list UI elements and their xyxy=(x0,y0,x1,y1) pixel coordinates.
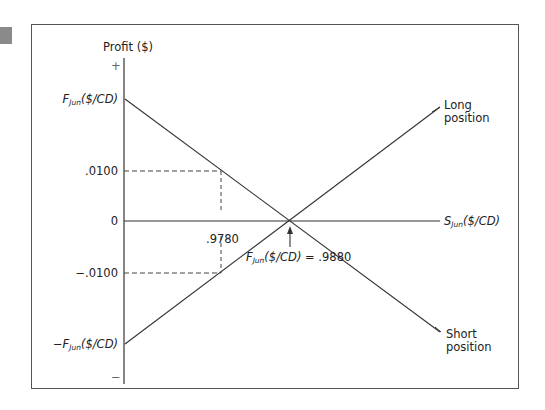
long-leader xyxy=(432,107,440,112)
tick-pos-0100: .0100 xyxy=(85,165,118,178)
long-position-label: Longposition xyxy=(444,99,490,125)
x-axis-label: SJun($/CD) xyxy=(444,215,500,231)
y-axis-title: Profit ($) xyxy=(103,41,153,54)
plus-sign: + xyxy=(111,60,121,73)
short-position-line xyxy=(125,99,440,332)
arrow-head-icon xyxy=(287,226,293,234)
tick-neg-0100: −.0100 xyxy=(75,267,118,280)
forward-price-annotation: FJun($/CD) = .9880 xyxy=(246,251,351,267)
short-position-label: Shortposition xyxy=(446,328,492,354)
tick-neg-f-jun: −FJun($/CD) xyxy=(53,338,118,354)
tick-f-jun: FJun($/CD) xyxy=(63,93,118,109)
x-tick-9780: .9780 xyxy=(206,233,239,246)
minus-sign: − xyxy=(111,371,121,384)
tick-zero: 0 xyxy=(111,215,118,228)
long-position-line xyxy=(125,107,440,344)
